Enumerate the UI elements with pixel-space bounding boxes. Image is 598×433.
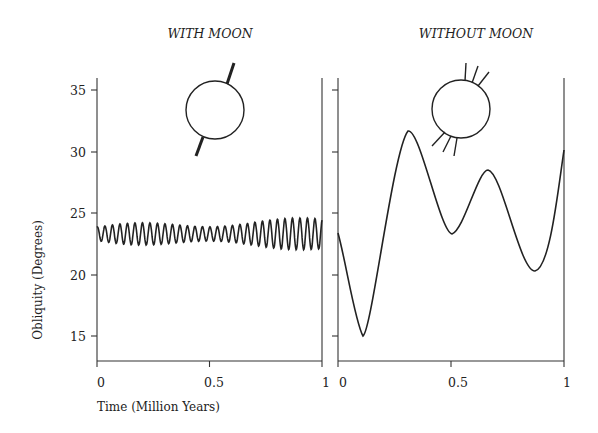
without-moon-line xyxy=(338,131,564,336)
y-tick-30: 30 xyxy=(70,145,86,160)
y-tick-35: 35 xyxy=(70,83,86,98)
obliquity-chart: WITH MOON WITHOUT MOON 35 30 25 20 15 0 … xyxy=(0,0,598,433)
left-panel-title: WITH MOON xyxy=(167,26,253,41)
right-x-tick-1: 1 xyxy=(563,375,571,390)
left-panel xyxy=(91,78,322,367)
y-tick-20: 20 xyxy=(70,268,86,283)
right-panel-title: WITHOUT MOON xyxy=(419,26,534,41)
y-axis-label: Obliquity (Degrees) xyxy=(31,220,45,340)
y-tick-labels: 35 30 25 20 15 xyxy=(70,83,86,344)
earth-chaotic-axis-icon xyxy=(432,63,490,156)
left-x-tick-0: 0 xyxy=(97,375,105,390)
earth-stable-axis-icon xyxy=(186,63,244,156)
left-x-tick-0.5: 0.5 xyxy=(204,375,224,390)
left-x-tick-1: 1 xyxy=(322,375,330,390)
right-x-tick-0.5: 0.5 xyxy=(448,375,468,390)
x-axis-label: Time (Million Years) xyxy=(97,400,220,414)
right-x-tick-0: 0 xyxy=(339,375,347,390)
y-tick-25: 25 xyxy=(70,206,86,221)
with-moon-line xyxy=(97,218,322,250)
y-tick-15: 15 xyxy=(70,329,86,344)
